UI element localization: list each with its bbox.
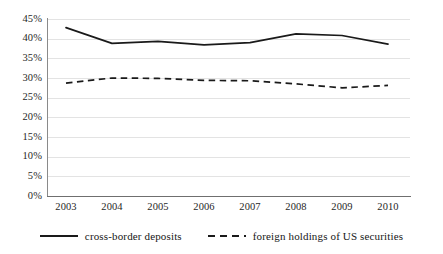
- legend-item-foreign-holdings-us-securities: foreign holdings of US securities: [208, 230, 403, 242]
- series-layer: [0, 0, 443, 254]
- series-line-cross-border-deposits: [66, 28, 388, 45]
- legend-label-cross-border-deposits: cross-border deposits: [85, 230, 182, 242]
- chart-legend: cross-border deposits foreign holdings o…: [0, 230, 443, 242]
- legend-swatch-solid-line: [40, 231, 78, 241]
- legend-swatch-dashed-line: [208, 231, 246, 241]
- series-line-foreign-holdings-us-securities: [66, 78, 388, 88]
- legend-label-foreign-holdings-us-securities: foreign holdings of US securities: [253, 230, 403, 242]
- legend-item-cross-border-deposits: cross-border deposits: [40, 230, 182, 242]
- line-chart: 0%5%10%15%20%25%30%35%40%45% 20032004200…: [0, 0, 443, 254]
